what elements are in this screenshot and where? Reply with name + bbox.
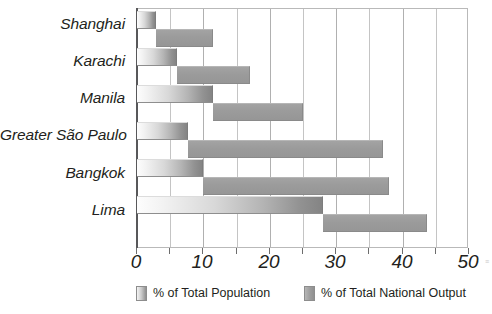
y-axis-label-bangkok: Bangkok	[0, 165, 125, 181]
bar-output-manila	[213, 103, 303, 121]
page-edge-artifact: ≡	[485, 258, 491, 292]
x-axis-label-10: 10	[191, 252, 212, 271]
bar-population-shanghai	[137, 11, 156, 29]
y-axis-label-shanghai: Shanghai	[0, 16, 125, 32]
gridline-45	[436, 9, 437, 247]
y-axis-label-manila: Manila	[0, 90, 125, 106]
bar-chart: Shanghai Karachi Manila Greater São Paul…	[0, 0, 492, 314]
legend-item-population: % of Total Population	[136, 286, 270, 301]
x-axis-label-20: 20	[258, 252, 279, 271]
bar-output-bangkok	[203, 177, 389, 195]
legend-swatch-population-icon	[136, 286, 147, 301]
x-axis-tick-25	[302, 248, 303, 254]
bar-population-manila	[137, 85, 213, 103]
x-axis-tick-35	[368, 248, 369, 254]
legend-item-output: % of Total National Output	[304, 286, 466, 301]
gridline-40	[403, 9, 404, 247]
legend-swatch-output-icon	[304, 286, 315, 301]
x-axis-label-0: 0	[131, 252, 142, 271]
bar-population-karachi	[137, 48, 177, 66]
x-axis-tick-45	[435, 248, 436, 254]
gridline-35	[369, 9, 370, 247]
bar-population-lima	[137, 196, 323, 214]
bar-output-lima	[323, 214, 427, 232]
y-axis-label-lima: Lima	[0, 202, 125, 218]
y-axis-label-greater-sao-paulo: Greater São Paulo	[0, 127, 125, 143]
x-axis-label-40: 40	[391, 252, 412, 271]
bar-output-greater-sao-paulo	[188, 140, 383, 158]
x-axis-label-50: 50	[457, 252, 478, 271]
x-axis-tick-5	[169, 248, 170, 254]
legend-label-population: % of Total Population	[153, 287, 270, 300]
bar-output-karachi	[177, 66, 250, 84]
y-axis-category-labels: Shanghai Karachi Manila Greater São Paul…	[0, 8, 131, 248]
bar-population-bangkok	[137, 159, 203, 177]
bar-population-greater-sao-paulo	[137, 122, 188, 140]
gridline-30	[336, 9, 337, 247]
x-axis-tick-15	[236, 248, 237, 254]
bar-output-shanghai	[156, 29, 213, 47]
y-axis-label-karachi: Karachi	[0, 53, 125, 69]
x-axis-label-30: 30	[324, 252, 345, 271]
plot-area	[136, 8, 468, 248]
legend-label-output: % of Total National Output	[321, 287, 466, 300]
